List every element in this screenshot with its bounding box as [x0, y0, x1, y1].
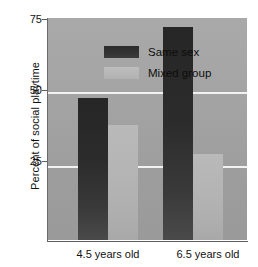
legend-swatch-mixed-group: [104, 67, 139, 79]
gridline-50: [48, 92, 247, 94]
y-axis-tick-labels: 75 50 25: [14, 0, 42, 267]
x-axis-line: [47, 241, 248, 242]
legend-label-mixed-group: Mixed group: [148, 67, 211, 79]
legend-item-same-sex: Same sex: [104, 43, 211, 60]
y-tick-label: 50: [16, 84, 42, 96]
x-axis-tick-labels: 4.5 years old 6.5 years old: [48, 248, 247, 264]
bar-same-sex-4-5: [78, 98, 108, 240]
plot-area: Same sex Mixed group: [48, 18, 247, 240]
x-tick-label-1: 6.5 years old: [148, 248, 258, 260]
legend: Same sex Mixed group: [104, 43, 211, 85]
legend-swatch-same-sex: [104, 46, 139, 58]
y-axis-line: [47, 18, 48, 242]
legend-item-mixed-group: Mixed group: [104, 64, 211, 81]
legend-label-same-sex: Same sex: [148, 46, 199, 58]
bar-mixed-group-4-5: [108, 125, 138, 240]
y-tick-label: 75: [16, 13, 42, 25]
bar-mixed-group-6-5: [193, 154, 223, 240]
bar-chart-figure: Percent of social playtime 75 50 25 Same…: [0, 0, 258, 267]
y-tick-label: 25: [16, 155, 42, 167]
